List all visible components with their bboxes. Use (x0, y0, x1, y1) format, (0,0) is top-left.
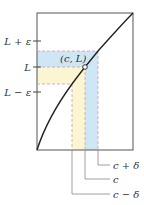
callout-c-plus-delta (98, 150, 110, 165)
label-L-plus-epsilon: L + ε (3, 36, 31, 47)
label-L-minus-epsilon: L − ε (3, 87, 31, 98)
label-L: L (23, 62, 31, 73)
epsilon-delta-diagram: L + ε L L − ε (c, L) c + δ c c − δ (0, 0, 144, 205)
yellow-band-vertical (72, 67, 85, 150)
callout-c (85, 150, 110, 179)
point-c-L (83, 65, 88, 70)
label-c: c (113, 174, 119, 185)
callout-c-minus-delta (72, 150, 110, 194)
label-c-plus-delta: c + δ (113, 160, 139, 171)
label-c-minus-delta: c − δ (113, 189, 139, 200)
label-point-c-L: (c, L) (60, 53, 87, 64)
